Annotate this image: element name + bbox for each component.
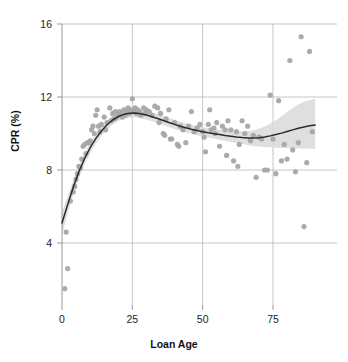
scatter-point — [99, 122, 104, 127]
y-tick-label: 12 — [18, 91, 52, 103]
scatter-point — [169, 136, 174, 141]
scatter-point — [287, 58, 292, 63]
scatter-point — [95, 107, 100, 112]
scatter-point — [88, 138, 93, 143]
scatter-point — [239, 118, 244, 123]
scatter-point — [242, 131, 247, 136]
scatter-point — [183, 140, 188, 145]
scatter-point — [301, 224, 306, 229]
scatter-point — [265, 167, 270, 172]
scatter-point — [155, 105, 160, 110]
scatter-point — [282, 142, 287, 147]
scatter-point — [268, 93, 273, 98]
scatter-point — [162, 133, 167, 138]
scatter-point — [189, 109, 194, 114]
scatter-point — [293, 169, 298, 174]
scatter-point — [102, 114, 107, 119]
confidence-band — [62, 99, 315, 235]
scatter-points — [62, 34, 315, 291]
scatter-point — [296, 140, 301, 145]
scatter-point — [299, 34, 304, 39]
scatter-point — [279, 158, 284, 163]
scatter-point — [217, 144, 222, 149]
y-tick-label: 8 — [18, 164, 52, 176]
scatter-point — [234, 129, 239, 134]
scatter-point — [206, 122, 211, 127]
scatter-point — [156, 120, 161, 125]
cpr-loan-age-scatter-chart: 481216 0255075 CPR (%) Loan Age — [0, 0, 348, 362]
scatter-point — [284, 156, 289, 161]
scatter-point — [225, 118, 230, 123]
scatter-point — [207, 107, 212, 112]
scatter-point — [201, 135, 206, 140]
scatter-point — [245, 124, 250, 129]
scatter-point — [92, 131, 97, 136]
scatter-point — [224, 153, 229, 158]
scatter-point — [130, 96, 135, 101]
scatter-point — [304, 160, 309, 165]
scatter-point — [235, 164, 240, 169]
confidence-band-area — [62, 99, 315, 235]
scatter-point — [197, 122, 202, 127]
x-axis-title: Loan Age — [0, 338, 348, 350]
scatter-point — [158, 111, 163, 116]
scatter-point — [64, 229, 69, 234]
scatter-point — [65, 266, 70, 271]
scatter-point — [248, 138, 253, 143]
scatter-point — [214, 120, 219, 125]
scatter-point — [90, 124, 95, 129]
scatter-point — [176, 144, 181, 149]
scatter-point — [231, 158, 236, 163]
y-tick-label: 4 — [18, 237, 52, 249]
y-axis-title: CPR (%) — [9, 86, 21, 176]
x-tick-label: 50 — [197, 313, 209, 325]
scatter-point — [62, 286, 67, 291]
tick-marks — [57, 24, 273, 310]
scatter-point — [211, 125, 216, 130]
scatter-point — [273, 171, 278, 176]
scatter-point — [270, 136, 275, 141]
gridlines — [62, 24, 337, 305]
scatter-point — [290, 147, 295, 152]
plot-canvas — [0, 0, 348, 362]
scatter-point — [276, 98, 281, 103]
scatter-point — [107, 105, 112, 110]
scatter-point — [228, 127, 233, 132]
scatter-point — [203, 149, 208, 154]
scatter-point — [223, 127, 228, 132]
scatter-point — [307, 49, 312, 54]
x-tick-label: 75 — [267, 313, 279, 325]
scatter-point — [93, 113, 98, 118]
scatter-point — [166, 107, 171, 112]
scatter-point — [310, 129, 315, 134]
x-tick-label: 0 — [59, 313, 65, 325]
x-tick-label: 25 — [126, 313, 138, 325]
scatter-point — [251, 133, 256, 138]
scatter-point — [254, 175, 259, 180]
y-tick-label: 16 — [18, 18, 52, 30]
scatter-point — [237, 142, 242, 147]
